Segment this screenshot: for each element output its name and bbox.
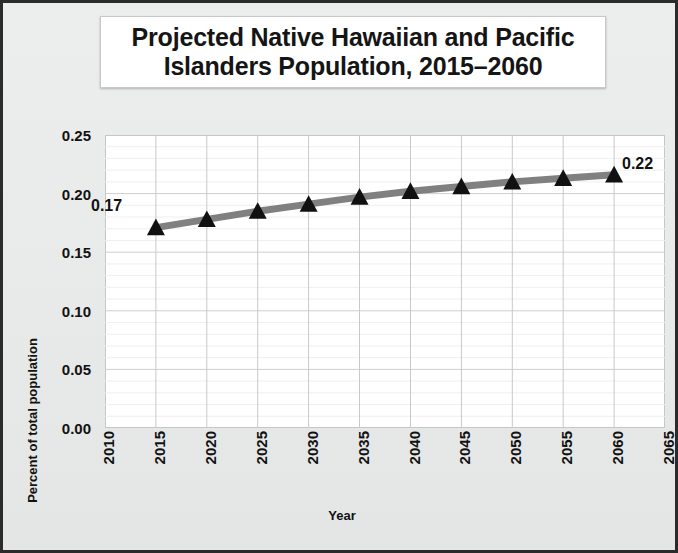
y-tick-label: 0.10: [62, 302, 91, 319]
x-tick-label: 2055: [558, 431, 575, 464]
minor-gridlines-horizontal: [105, 147, 665, 417]
x-tick-label: 2035: [355, 431, 372, 464]
x-tick-label: 2045: [456, 431, 473, 464]
y-axis-title: Percent of total population: [25, 306, 40, 536]
data-series-line: [156, 175, 614, 228]
x-tick-label: 2030: [304, 431, 321, 464]
y-axis: Percent of total population 0.25 0.20 0.…: [3, 135, 99, 428]
x-tick-label: 2040: [406, 431, 423, 464]
y-tick-label: 0.15: [62, 244, 91, 261]
plot-area: 0.17 0.22: [105, 135, 665, 428]
x-tick-label: 2065: [660, 431, 677, 464]
plot-canvas: [105, 135, 665, 428]
page-title: Projected Native Hawaiian and Pacific Is…: [126, 23, 581, 82]
chart-title-line-2: Islanders Population, 2015–2060: [164, 52, 543, 80]
x-tick-label: 2025: [253, 431, 270, 464]
x-tick-label: 2010: [100, 431, 117, 464]
data-label-last: 0.22: [622, 155, 653, 173]
x-tick-label: 2060: [609, 431, 626, 464]
chart-title-plate: Projected Native Hawaiian and Pacific Is…: [100, 16, 606, 88]
y-tick-label: 0.00: [62, 420, 91, 437]
x-tick-label: 2015: [151, 431, 168, 464]
y-tick-label: 0.25: [62, 127, 91, 144]
y-tick-label: 0.20: [62, 185, 91, 202]
chart-figure-frame: Projected Native Hawaiian and Pacific Is…: [0, 0, 678, 553]
chart-title-line-1: Projected Native Hawaiian and Pacific: [132, 23, 575, 51]
data-label-first: 0.17: [91, 197, 122, 215]
x-axis: 2010 2015 2020 2025 2030 2035 2040 2045 …: [105, 431, 665, 493]
x-tick-label: 2050: [507, 431, 524, 464]
x-axis-title: Year: [3, 508, 678, 523]
x-tick-label: 2020: [202, 431, 219, 464]
y-tick-label: 0.05: [62, 361, 91, 378]
